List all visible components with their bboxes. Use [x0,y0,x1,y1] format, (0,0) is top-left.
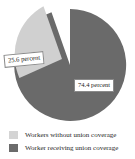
pie-chart-figure: 25.6 percent 74.4 percent Workers withou… [0,0,135,159]
legend-swatch-icon-without-coverage [9,131,18,139]
data-label-union-coverage: 74.4 percent [74,79,114,92]
legend-item-union-coverage[interactable]: Worker receiving union coverage [9,142,135,154]
legend-label-union-coverage: Worker receiving union coverage [25,144,118,153]
pie-plot-area: 25.6 percent 74.4 percent [0,0,135,128]
legend-item-without-coverage[interactable]: Workers without union coverage [9,129,135,141]
chart-legend: Workers without union coverage Worker re… [9,129,135,155]
legend-swatch-icon-union-coverage [9,144,18,152]
legend-label-without-coverage: Workers without union coverage [25,131,116,140]
